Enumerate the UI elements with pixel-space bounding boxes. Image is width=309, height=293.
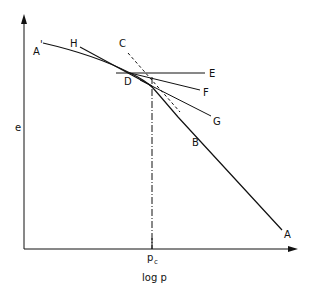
label-D: D: [124, 76, 132, 87]
y-axis-arrow-icon: [21, 14, 27, 24]
label-F: F: [203, 87, 209, 98]
bisector-line-F: [130, 73, 200, 90]
label-G: G: [213, 116, 221, 127]
label-A-prime: A: [33, 46, 40, 57]
consolidation-curve: [43, 43, 282, 230]
consolidation-diagram: A ' H C D E F G B A e p c log p: [0, 0, 309, 293]
label-H: H: [70, 38, 78, 49]
axes: [24, 20, 292, 249]
label-C: C: [119, 38, 126, 49]
label-E: E: [209, 68, 215, 79]
line-G: [140, 80, 211, 116]
x-axis-arrow-icon: [288, 246, 298, 252]
label-A-prime-mark: ': [40, 39, 43, 50]
y-axis-label: e: [15, 122, 21, 133]
dashed-line-C: [128, 53, 180, 112]
pc-subscript: c: [154, 258, 158, 266]
label-B: B: [192, 137, 199, 148]
x-axis-label: log p: [142, 272, 167, 283]
label-A: A: [284, 229, 291, 240]
pc-label: p: [147, 252, 153, 263]
